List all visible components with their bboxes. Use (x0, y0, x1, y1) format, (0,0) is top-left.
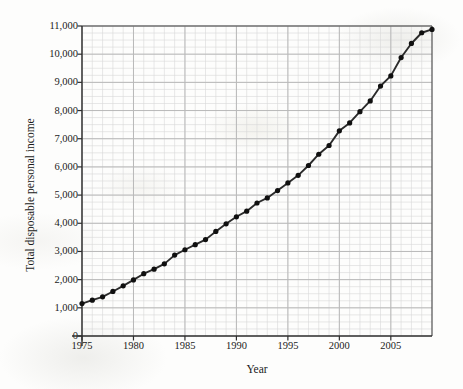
data-point (162, 261, 167, 266)
data-point (203, 237, 208, 242)
data-point (131, 277, 136, 282)
data-point (151, 267, 156, 272)
data-point (100, 294, 105, 299)
data-point (337, 128, 342, 133)
data-point (296, 173, 301, 178)
data-point (90, 298, 95, 303)
data-point (172, 253, 177, 258)
data-point (378, 83, 383, 88)
data-point (141, 271, 146, 276)
minor-gridlines (82, 26, 432, 336)
data-point (388, 73, 393, 78)
data-point (429, 27, 434, 32)
chart-figure: Total disposable personal income Year 01… (0, 0, 463, 389)
data-point (326, 143, 331, 148)
data-point (285, 180, 290, 185)
data-point (368, 98, 373, 103)
line-chart-plot (0, 0, 463, 389)
data-point (213, 229, 218, 234)
data-point (316, 152, 321, 157)
data-point (110, 289, 115, 294)
data-point (79, 301, 84, 306)
axis-frame (72, 26, 432, 346)
data-point (399, 55, 404, 60)
data-point (357, 109, 362, 114)
data-point (121, 283, 126, 288)
data-point (224, 221, 229, 226)
data-point (275, 188, 280, 193)
data-point (244, 209, 249, 214)
data-point (254, 200, 259, 205)
data-point (306, 163, 311, 168)
axis-tick-marks (78, 26, 391, 341)
data-point (193, 242, 198, 247)
data-point (234, 214, 239, 219)
data-point (182, 247, 187, 252)
data-point (409, 41, 414, 46)
data-point (347, 120, 352, 125)
data-point (265, 195, 270, 200)
data-point (419, 30, 424, 35)
